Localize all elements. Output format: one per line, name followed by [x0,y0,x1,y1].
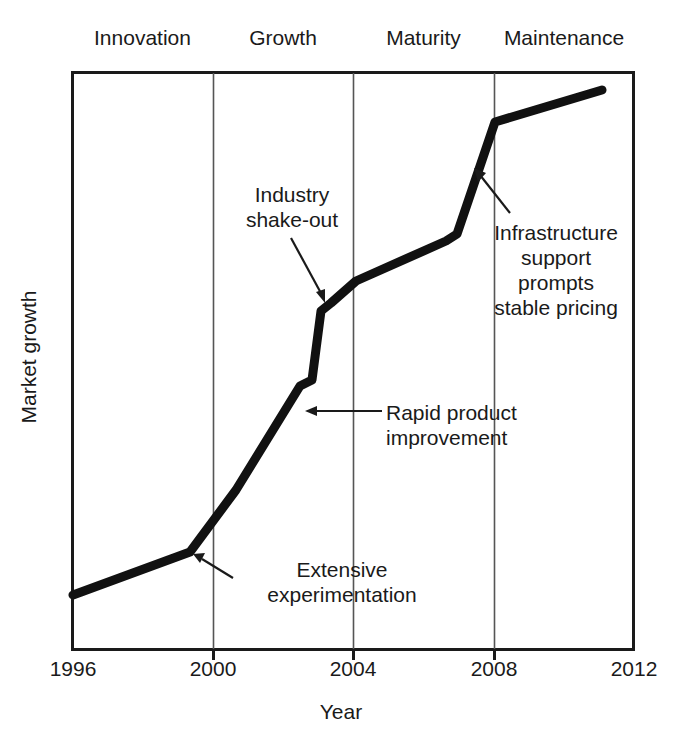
x-tick-label-1996: 1996 [38,657,108,681]
annotation-industry-shakeout: Industry shake-out [212,182,372,232]
market-growth-curve [73,90,602,595]
annotation-arrow-rapid-product-improvement [305,406,382,416]
y-axis-title: Market growth [17,267,41,447]
plot-area [0,0,682,754]
x-tick-label-2012: 2012 [599,657,669,681]
x-tick-label-2008: 2008 [459,657,529,681]
phase-label-innovation: Innovation [72,26,213,50]
phase-label-maturity: Maturity [353,26,494,50]
market-growth-lifecycle-chart: Innovation Growth Maturity Maintenance [0,0,682,754]
x-tick-label-2004: 2004 [318,657,388,681]
annotation-arrow-extensive-experimentation [193,553,233,578]
annotation-arrow-industry-shakeout [291,238,325,303]
x-axis-title: Year [0,700,682,724]
annotation-rapid-product-improvement: Rapid product improvement [386,400,576,450]
phase-label-growth: Growth [213,26,353,50]
phase-label-maintenance: Maintenance [494,26,634,50]
annotation-infrastructure-support: Infrastructure support prompts stable pr… [466,220,646,320]
annotation-arrow-infrastructure-support [474,168,510,213]
x-tick-label-2000: 2000 [178,657,248,681]
annotation-extensive-experimentation: Extensive experimentation [237,557,447,607]
